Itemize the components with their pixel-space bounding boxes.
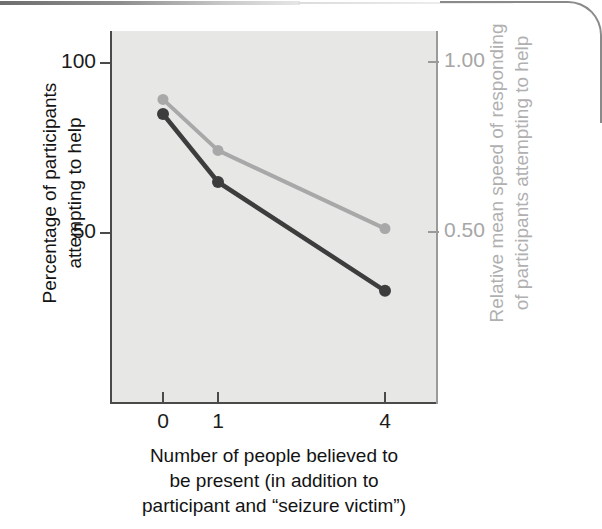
series-line-relative-speed — [163, 99, 385, 228]
tick-mark-bottom-4 — [384, 392, 386, 403]
tick-label-bottom-0: 0 — [138, 409, 188, 433]
plot-svg — [111, 31, 437, 403]
axis-title-left: Percentage of participants attempting to… — [37, 63, 87, 323]
data-point-percentage-helping-1 — [212, 176, 224, 188]
axis-right-spine — [436, 31, 438, 404]
data-point-percentage-helping-2 — [379, 285, 391, 297]
axis-bottom-spine — [110, 402, 438, 404]
tick-mark-left-50 — [100, 232, 111, 234]
axis-left-spine — [110, 31, 112, 404]
data-point-percentage-helping-0 — [157, 108, 169, 120]
tick-label-bottom-1: 1 — [193, 409, 243, 433]
series-markers-percentage-helping — [157, 108, 391, 297]
tick-mark-left-100 — [100, 62, 111, 64]
tick-mark-bottom-1 — [217, 392, 219, 403]
plot-area — [111, 31, 437, 403]
data-point-relative-speed-0 — [158, 94, 169, 105]
tick-mark-bottom-0 — [162, 392, 164, 403]
axis-title-right: Relative mean speed of responding of par… — [484, 23, 534, 323]
tick-mark-right-1.00 — [428, 61, 439, 63]
tick-mark-right-0.50 — [428, 231, 439, 233]
axis-title-bottom: Number of people believed to be present … — [96, 443, 452, 518]
data-point-relative-speed-1 — [213, 145, 224, 156]
tick-label-bottom-4: 4 — [360, 409, 410, 433]
data-point-relative-speed-2 — [380, 223, 391, 234]
series-line-percentage-helping — [163, 114, 385, 291]
